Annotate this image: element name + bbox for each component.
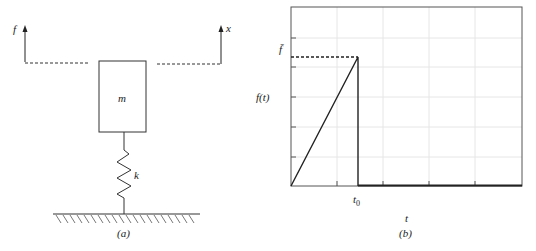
force-label: f [13,23,18,35]
force-curve [291,57,358,186]
y-axis-label: f(t) [256,91,270,104]
spring [117,132,131,214]
displacement-arrow-head-icon [219,25,224,32]
t0-label: t0 [353,193,360,208]
ground [53,214,200,223]
caption-b: (b) [399,227,412,240]
panel-a: f m x k [13,22,231,240]
y-ticks [291,38,296,157]
peak-label: f̄ [279,43,284,55]
caption-a: (a) [117,227,130,240]
x-axis-label: t [405,212,409,224]
spring-label: k [134,169,140,181]
mass-label: m [118,92,126,104]
panel-b: f̄ f(t) t0 t (b) [256,7,522,240]
displacement-label: x [225,22,231,34]
figure: f m x k [0,0,536,251]
chart-grid [291,7,522,186]
force-arrow-head-icon [23,25,28,32]
